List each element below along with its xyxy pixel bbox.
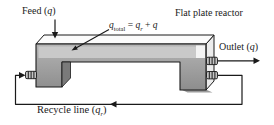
plus-sign: +	[143, 20, 153, 30]
left-fitting	[26, 71, 37, 78]
liquid-band	[39, 47, 197, 59]
outlet-arrow	[218, 58, 260, 64]
equals-sign: =	[125, 20, 135, 30]
outlet-label-text: Outlet (	[219, 41, 250, 52]
qtotal-equation-label: qtotal = qr + q	[109, 20, 158, 30]
feed-label-text: Feed (	[22, 5, 47, 16]
q-variable: q	[153, 20, 158, 30]
recycle-line-label: Recycle line (qr)	[37, 104, 107, 116]
reactor-top-face	[36, 35, 214, 44]
recycle-flow-arrowhead	[110, 101, 117, 107]
recycle-label-text: Recycle line (	[37, 104, 95, 115]
recycle-return-arrowhead	[19, 72, 26, 78]
outlet-label-close: )	[255, 41, 258, 52]
recycle-label-close: )	[103, 104, 107, 115]
qtotal-subscript: total	[114, 25, 126, 32]
feed-label-close: )	[52, 5, 55, 16]
feed-label: Feed (q)	[22, 5, 56, 16]
recycle-fitting	[207, 72, 218, 79]
outlet-label: Outlet (q)	[219, 41, 258, 52]
flat-plate-reactor-diagram: Feed (q) Flat plate reactor qtotal = qr …	[0, 0, 274, 125]
notch-inner-face	[62, 62, 71, 87]
outlet-fitting	[207, 57, 218, 64]
liquid-headspace-highlight	[196, 46, 205, 59]
reactor-title: Flat plate reactor	[175, 7, 243, 18]
